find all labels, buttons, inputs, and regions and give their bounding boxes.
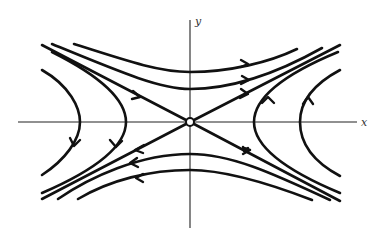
y-axis-label: y [194,15,202,28]
origin-marker-icon [186,118,194,126]
separatrix-upper-right [194,45,340,120]
phase-portrait-diagram: x y [0,0,382,237]
separatrix-lower-left [42,124,186,199]
trajectory-bottom-outer [78,170,312,200]
arrow-icon [303,97,313,104]
arrow-icon [132,91,140,99]
trajectory-right-outer [300,70,340,176]
x-axis-label: x [361,116,368,129]
